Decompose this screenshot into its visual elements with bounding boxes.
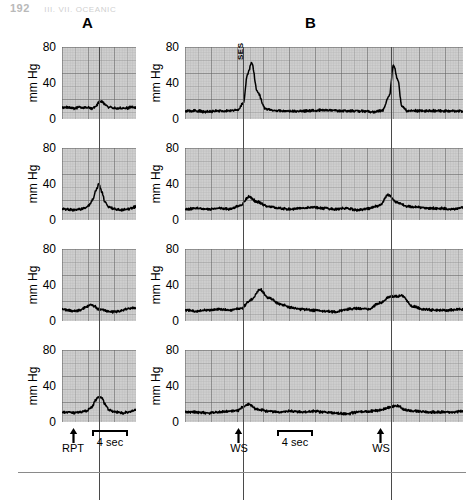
y-tick-0: 0 [10,314,60,328]
stimulus-marker-line-a-1 [99,350,100,500]
y-axis-b-row4: mm Hg80400 [137,350,183,422]
stimulus-label-rpt: RPT [62,442,84,454]
y-axis-b-row2: mm Hg80400 [137,148,183,220]
stimulus-marker-line-a-1 [99,249,100,350]
stimulus-arrow-rpt [69,428,78,443]
y-tick-0: 0 [133,314,183,328]
trace-pane-b-row3 [185,249,463,321]
y-tick-80: 80 [133,141,183,155]
y-axis-a-row1: mm Hg80400 [14,47,60,119]
peak-annotation-ses: SES [236,42,245,60]
y-tick-40: 40 [133,177,183,191]
pressure-trace [185,148,463,220]
stimulus-marker-line-b-2 [391,249,392,350]
y-tick-0: 0 [10,415,60,429]
y-tick-80: 80 [133,343,183,357]
y-axis-a-row4: mm Hg80400 [14,350,60,422]
stimulus-arrow-ws-1 [234,428,243,443]
stimulus-marker-line-b-1 [243,148,244,249]
y-tick-80: 80 [10,40,60,54]
y-axis-b-row1: mm Hg80400 [137,47,183,119]
stimulus-label-ws-1: WS [230,442,248,454]
footer-divider [18,472,466,473]
y-tick-40: 40 [10,379,60,393]
stimulus-label-ws-2: WS [372,442,390,454]
stimulus-marker-line-b-1 [243,249,244,350]
y-tick-40: 40 [133,278,183,292]
stimulus-marker-line-a-1 [99,47,100,148]
y-tick-40: 40 [133,379,183,393]
y-axis-b-row3: mm Hg80400 [137,249,183,321]
stimulus-marker-line-b-1 [243,47,244,148]
trace-pane-b-row4 [185,350,463,422]
scalebar-a-label: 4 sec [97,436,123,448]
y-axis-a-row3: mm Hg80400 [14,249,60,321]
y-tick-40: 40 [10,177,60,191]
panel-letter-a: A [82,14,93,31]
y-tick-0: 0 [133,213,183,227]
stimulus-arrow-ws-2 [376,428,385,443]
y-tick-40: 40 [10,76,60,90]
pressure-trace [185,249,463,321]
scalebar-b-label: 4 sec [282,436,308,448]
stimulus-marker-line-b-2 [391,47,392,148]
stimulus-marker-line-b-2 [391,350,392,500]
y-tick-0: 0 [133,415,183,429]
y-tick-0: 0 [10,112,60,126]
trace-pane-b-row2 [185,148,463,220]
running-head-title: III. VII. OCEANIC [44,5,116,12]
y-tick-80: 80 [133,40,183,54]
y-tick-40: 40 [133,76,183,90]
stimulus-marker-line-b-2 [391,148,392,249]
y-tick-40: 40 [10,278,60,292]
y-tick-80: 80 [10,242,60,256]
panel-letter-b: B [305,14,316,31]
trace-pane-b-row1 [185,47,463,119]
y-tick-80: 80 [10,343,60,357]
pressure-trace [185,350,463,422]
stimulus-marker-line-a-1 [99,148,100,249]
page-number: 192 [10,2,30,12]
y-tick-80: 80 [10,141,60,155]
y-tick-0: 0 [10,213,60,227]
y-axis-a-row2: mm Hg80400 [14,148,60,220]
y-tick-80: 80 [133,242,183,256]
running-head: 192 III. VII. OCEANIC [10,0,250,12]
y-tick-0: 0 [133,112,183,126]
pressure-trace [185,47,463,119]
stimulus-marker-line-b-1 [243,350,244,500]
